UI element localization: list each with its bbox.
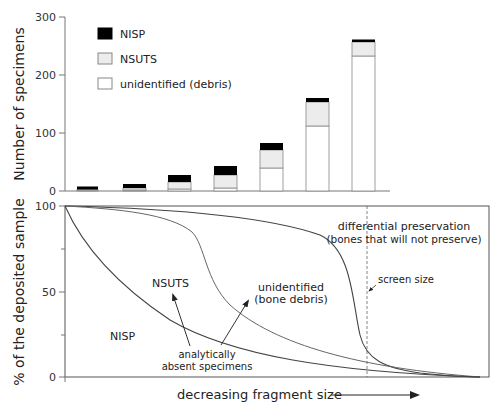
label-unidentified-2: (bone debris) xyxy=(254,293,328,306)
arrow-to-screen-size xyxy=(369,285,376,291)
legend-label-nsuts: NSUTS xyxy=(120,53,157,66)
figure: 300 200 100 0 Number of specimens NISP N… xyxy=(0,0,499,411)
y-tick-300: 300 xyxy=(35,11,56,24)
bar-6 xyxy=(306,98,329,191)
y-tick-100: 100 xyxy=(35,127,56,140)
bar-2 xyxy=(123,184,146,191)
y-tick-100: 100 xyxy=(35,200,56,213)
label-screen-size: screen size xyxy=(378,274,434,285)
y-tick-50: 50 xyxy=(42,286,56,299)
legend-swatch-nisp xyxy=(98,28,112,39)
line-chart: 100 50 0 % of the deposited sample NSUTS… xyxy=(11,198,489,402)
label-nsuts: NSUTS xyxy=(152,277,189,290)
label-absent-specimens: absent specimens xyxy=(162,361,253,372)
y-axis-label: % of the deposited sample xyxy=(11,198,27,386)
bar-4 xyxy=(214,166,237,191)
label-nisp: NISP xyxy=(110,330,135,343)
legend-swatch-unidentified xyxy=(98,78,112,89)
label-differential-1: differential preservation xyxy=(338,220,470,233)
label-differential-2: (bones that will not preserve) xyxy=(326,233,481,245)
bar-1 xyxy=(77,187,98,192)
y-axis-label: Number of specimens xyxy=(11,27,27,180)
y-tick-0: 0 xyxy=(49,371,56,384)
y-tick-200: 200 xyxy=(35,69,56,82)
bar-5 xyxy=(260,143,283,191)
x-axis-label: decreasing fragment size xyxy=(177,387,342,402)
bar-chart: 300 200 100 0 Number of specimens NISP N… xyxy=(11,11,390,198)
legend: NISP NSUTS unidentified (debris) xyxy=(98,28,232,91)
x-direction-arrowhead-icon xyxy=(410,391,420,399)
bar-3 xyxy=(168,175,191,191)
legend-label-unidentified: unidentified (debris) xyxy=(120,78,232,91)
y-tick-0: 0 xyxy=(49,185,56,198)
legend-label-nisp: NISP xyxy=(120,28,145,41)
bar-7 xyxy=(352,40,375,192)
arrow-to-unidentified xyxy=(221,301,248,345)
legend-swatch-nsuts xyxy=(98,53,112,64)
arrow-to-nsuts xyxy=(173,295,190,346)
label-analytically: analytically xyxy=(178,349,235,360)
